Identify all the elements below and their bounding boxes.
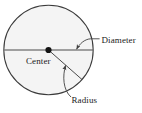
label-center: Center [26, 56, 51, 66]
label-diameter: Diameter [102, 35, 136, 45]
circle-diagram-figure: Center Diameter Radius [0, 0, 142, 113]
circle-diagram-canvas: Center Diameter Radius [0, 0, 142, 113]
center-point-dot [45, 47, 51, 53]
label-radius: Radius [72, 95, 98, 105]
